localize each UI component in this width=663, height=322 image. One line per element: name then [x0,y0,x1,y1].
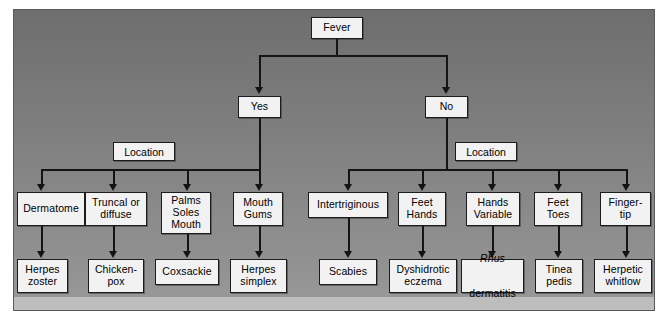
rhus-dermatitis-text: Rhus dermatitis [469,241,516,312]
connector-dx-right-2 [422,226,424,253]
node-yes: Yes [238,96,281,118]
panel-bottom-strip [14,297,654,310]
node-diagnosis-herpes-simplex: Herpes simplex [230,259,287,293]
arrowhead-to-yes [255,87,263,94]
label-location-right: Location [455,142,517,161]
arrowhead-dx-right-1 [344,251,352,258]
node-category-palms-soles-mouth: Palms Soles Mouth [161,192,211,234]
node-category-intertriginous: Intertriginous [308,192,388,218]
connector-dx-left-1 [41,226,43,253]
arrowhead-dx-right-5 [622,251,630,258]
connector-right-location-bus [348,169,628,171]
connector-dx-left-2 [113,226,115,253]
node-diagnosis-rhus-dermatitis: Rhus dermatitis [461,259,524,293]
connector-dx-right-5 [626,226,628,253]
node-category-dermatome: Dermatome [17,192,85,226]
node-no: No [425,96,468,118]
arrowhead-dx-left-2 [109,251,117,258]
connector-to-yes [259,55,261,89]
arrowhead-left-cat-2 [109,184,117,191]
connector-dx-right-4 [558,226,560,253]
node-category-fingertip: Finger- tip [600,192,651,226]
arrowhead-right-cat-1 [344,184,352,191]
arrowhead-dx-left-4 [255,251,263,258]
arrowhead-dx-left-3 [183,251,191,258]
label-location-left: Location [113,142,175,161]
arrowhead-left-cat-3 [183,184,191,191]
arrowhead-right-cat-4 [554,184,562,191]
arrowhead-right-cat-3 [488,184,496,191]
node-category-hands-variable: Hands Variable [466,192,520,226]
node-category-truncal-diffuse: Truncal or diffuse [85,192,147,226]
rhus-italic-word: Rhus [469,253,516,265]
arrowhead-right-cat-5 [622,184,630,191]
node-diagnosis-chickenpox: Chicken- pox [88,259,144,293]
connector-dx-right-1 [348,218,350,253]
connector-yes-stem [259,118,261,170]
node-category-mouth-gums: Mouth Gums [233,192,283,226]
node-diagnosis-herpetic-whitlow: Herpetic whitlow [594,259,652,293]
arrowhead-left-cat-1 [37,184,45,191]
connector-no-stem [446,118,448,170]
arrowhead-left-cat-4 [255,184,263,191]
node-diagnosis-scabies: Scabies [319,259,377,285]
connector-fever-stem [336,39,338,56]
node-category-feet-toes: Feet Toes [534,192,582,226]
node-fever: Fever [311,17,363,39]
arrowhead-to-no [442,87,450,94]
connector-left-location-bus [41,169,261,171]
arrowhead-dx-right-4 [554,251,562,258]
node-diagnosis-herpes-zoster: Herpes zoster [17,259,68,293]
arrowhead-right-cat-2 [418,184,426,191]
node-diagnosis-dyshidrotic-eczema: Dyshidrotic eczema [389,259,457,293]
connector-to-no [446,55,448,89]
flowchart-figure: Fever Yes No Location Dermatome Truncal … [0,0,663,322]
node-category-feet-hands: Feet Hands [398,192,446,226]
connector-split-bus-top [259,55,448,57]
arrowhead-dx-right-2 [418,251,426,258]
node-diagnosis-tinea-pedis: Tinea pedis [535,259,583,293]
dermatitis-word: dermatitis [469,288,516,300]
arrowhead-dx-left-1 [37,251,45,258]
connector-dx-left-4 [259,226,261,253]
node-diagnosis-coxsackie: Coxsackie [155,259,219,285]
